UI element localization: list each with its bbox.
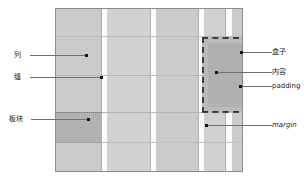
grid-column-2 [107, 9, 151, 171]
leader-box [243, 52, 272, 53]
vrule-2 [150, 9, 151, 171]
grid-canvas [55, 8, 243, 172]
label-gutter: 缝 [14, 73, 21, 82]
box-content-area [208, 43, 243, 107]
vrule-3 [198, 9, 199, 171]
leader-content [218, 72, 272, 73]
label-padding: padding [272, 82, 300, 91]
box-padding-frame [202, 37, 243, 113]
highlighted-block [56, 112, 102, 143]
leader-dot-gutter [100, 76, 103, 79]
grid-column-3 [156, 9, 199, 171]
diagram-stage: 列 缝 板块 盒子 内容 padding margin [0, 0, 304, 181]
leader-block [31, 119, 88, 120]
vrule-1 [101, 9, 102, 171]
label-margin: margin [272, 121, 297, 130]
label-column: 列 [14, 51, 21, 60]
label-content: 内容 [272, 68, 287, 77]
leader-dot-column [85, 54, 88, 57]
gutter-1 [102, 9, 107, 171]
leader-padding [242, 86, 272, 87]
leader-dot-block [87, 118, 90, 121]
label-block: 板块 [9, 115, 24, 124]
gutter-2 [151, 9, 156, 171]
leader-margin [208, 125, 272, 126]
label-box: 盒子 [272, 48, 287, 57]
leader-column [30, 55, 86, 56]
leader-gutter [30, 77, 101, 78]
grid-column-1 [56, 9, 102, 171]
